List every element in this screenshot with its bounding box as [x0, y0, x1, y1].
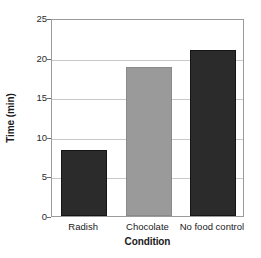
y-tick-label-10: 10	[23, 133, 47, 143]
bar-radish	[61, 150, 107, 216]
x-axis-title: Condition	[51, 236, 244, 247]
y-tick-label-5: 5	[23, 172, 47, 182]
y-tick-label-0: 0	[23, 212, 47, 222]
bar-no-food-control	[190, 50, 236, 216]
x-tick-label-no-food-control: No food control	[180, 221, 244, 232]
x-tick-label-radish: Radish	[51, 221, 115, 232]
y-axis-title: Time (min)	[4, 19, 18, 217]
plot-area	[51, 19, 244, 217]
bar-chart-figure: Time (min) 0510152025 RadishChocolateNo …	[0, 0, 261, 258]
y-tick-mark-0	[47, 217, 51, 218]
y-tick-label-15: 15	[23, 93, 47, 103]
x-tick-label-chocolate: Chocolate	[115, 221, 179, 232]
y-tick-label-20: 20	[23, 54, 47, 64]
bar-chocolate	[126, 67, 172, 216]
y-tick-label-25: 25	[23, 14, 47, 24]
